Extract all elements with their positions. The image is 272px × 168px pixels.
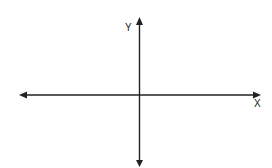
y-axis-label: Y [125, 23, 132, 33]
y-axis-down-arrow-icon [136, 160, 143, 167]
y-axis-up-arrow-icon [136, 17, 143, 25]
x-axis-label: X [254, 99, 261, 109]
x-axis-left-arrow-icon [19, 92, 27, 99]
axes-drawing [0, 0, 272, 168]
coordinate-plane: Y X [0, 0, 272, 168]
y-axis [136, 17, 143, 167]
